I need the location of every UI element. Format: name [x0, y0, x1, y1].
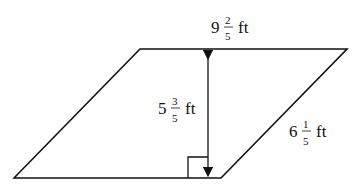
- svg-text:9: 9: [211, 18, 220, 37]
- svg-text:5: 5: [158, 99, 167, 118]
- svg-text:5: 5: [172, 112, 178, 124]
- svg-text:3: 3: [172, 95, 178, 107]
- svg-text:ft: ft: [316, 122, 327, 141]
- svg-text:ft: ft: [185, 99, 196, 118]
- svg-text:ft: ft: [238, 18, 249, 37]
- svg-text:2: 2: [225, 14, 231, 26]
- top-base-label: 9 2 5 ft: [211, 14, 249, 42]
- svg-text:5: 5: [303, 135, 309, 147]
- parallelogram-shape: [14, 49, 347, 178]
- parallelogram-diagram: 9 2 5 ft 5 3 5 ft 6 1 5 ft: [0, 0, 361, 187]
- height-label: 5 3 5 ft: [158, 95, 196, 124]
- svg-text:1: 1: [303, 118, 309, 130]
- side-label: 6 1 5 ft: [289, 118, 327, 147]
- svg-text:5: 5: [225, 30, 231, 42]
- svg-text:6: 6: [289, 122, 298, 141]
- right-angle-marker: [188, 157, 208, 178]
